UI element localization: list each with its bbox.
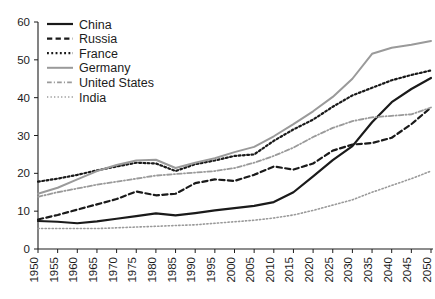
x-tick-label: 2040 (382, 257, 394, 283)
y-tick-label: 60 (17, 16, 30, 28)
x-tick-label: 2000 (225, 257, 237, 283)
x-tick-label: 1960 (67, 257, 79, 283)
x-tick-label: 2020 (303, 257, 315, 283)
x-tick-label: 1950 (28, 257, 40, 283)
legend-item-germany[interactable]: Germany (47, 61, 131, 75)
y-tick-label: 20 (17, 167, 30, 179)
y-tick-label: 0 (24, 243, 30, 255)
y-axis-ticks: 0102030405060 (17, 16, 38, 255)
legend-item-india[interactable]: India (47, 91, 106, 105)
x-tick-label: 1985 (166, 257, 178, 283)
x-tick-label: 1990 (185, 257, 197, 283)
legend-label: China (79, 18, 112, 32)
legend-label: Russia (79, 32, 117, 46)
x-tick-label: 2035 (362, 257, 374, 283)
x-tick-label: 2005 (244, 257, 256, 283)
line-chart: 0102030405060195019551960196519701975198… (0, 0, 435, 299)
legend-item-france[interactable]: France (47, 47, 118, 61)
x-tick-label: 1980 (146, 257, 158, 283)
x-tick-label: 1965 (87, 257, 99, 283)
x-tick-label: 1955 (48, 257, 60, 283)
x-tick-label: 1975 (126, 257, 138, 283)
x-tick-label: 2025 (323, 257, 335, 283)
y-tick-label: 50 (17, 54, 30, 66)
x-axis-ticks: 1950195519601965197019751980198519901995… (28, 249, 433, 283)
x-tick-label: 2015 (283, 257, 295, 283)
legend-label: France (79, 47, 118, 61)
legend: ChinaRussiaFranceGermanyUnited StatesInd… (47, 18, 154, 105)
x-tick-label: 2030 (342, 257, 354, 283)
legend-item-russia[interactable]: Russia (47, 32, 117, 46)
y-tick-label: 10 (17, 205, 30, 217)
legend-item-china[interactable]: China (47, 18, 112, 32)
legend-item-united-states[interactable]: United States (47, 76, 154, 90)
legend-label: Germany (79, 61, 131, 75)
x-tick-label: 1970 (107, 257, 119, 283)
x-tick-label: 2045 (401, 257, 413, 283)
y-tick-label: 40 (17, 92, 30, 104)
series-line-india (38, 171, 431, 229)
legend-label: United States (79, 76, 154, 90)
legend-label: India (79, 91, 106, 105)
chart-svg: 0102030405060195019551960196519701975198… (0, 0, 435, 299)
x-tick-label: 1995 (205, 257, 217, 283)
x-tick-label: 2050 (421, 257, 433, 283)
x-tick-label: 2010 (264, 257, 276, 283)
series-line-russia (38, 108, 431, 220)
y-tick-label: 30 (17, 130, 30, 142)
